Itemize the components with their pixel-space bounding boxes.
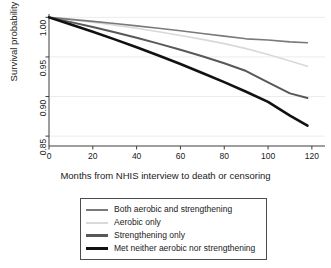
y-tick-label: 0.95 <box>38 56 48 80</box>
legend-item: Strengthening only <box>86 229 261 242</box>
legend-line-swatch <box>86 234 108 237</box>
y-axis-title: Survival probability <box>8 0 19 102</box>
legend-item-label: Strengthening only <box>114 230 185 241</box>
x-tick-label: 40 <box>122 151 152 161</box>
legend-item: Aerobic only <box>86 216 261 229</box>
x-tick-label: 120 <box>297 151 327 161</box>
legend-item-label: Aerobic only <box>114 217 161 228</box>
legend-item-label: Met neither aerobic nor strengthening <box>114 243 255 254</box>
legend-line-swatch <box>86 247 108 250</box>
legend-item: Both aerobic and strengthening <box>86 203 261 216</box>
x-axis-title: Months from NHIS interview to death or c… <box>0 170 331 181</box>
survival-curve-figure: Survival probability Months from NHIS in… <box>0 0 331 268</box>
x-tick-label: 60 <box>165 151 195 161</box>
x-tick-label: 0 <box>34 151 64 161</box>
legend-item-label: Both aerobic and strengthening <box>114 204 232 215</box>
y-tick-label: 1.00 <box>38 16 48 40</box>
x-tick-label: 20 <box>78 151 108 161</box>
legend-item: Met neither aerobic nor strengthening <box>86 242 261 255</box>
y-tick-label: 0.90 <box>38 96 48 120</box>
x-tick-label: 100 <box>253 151 283 161</box>
legend-line-swatch <box>86 209 108 211</box>
x-tick-label: 80 <box>209 151 239 161</box>
chart-legend: Both aerobic and strengthening Aerobic o… <box>80 198 267 260</box>
legend-line-swatch <box>86 222 108 224</box>
